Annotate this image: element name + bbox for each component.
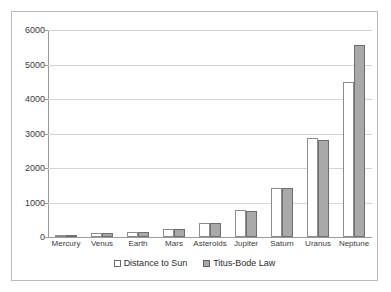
y-axis-tick-label: 1000 (11, 198, 45, 207)
x-axis-tick-label: Saturn (270, 239, 294, 249)
bar[interactable] (127, 232, 138, 237)
legend-label: Titus-Bode Law (213, 258, 275, 268)
bar[interactable] (138, 232, 149, 237)
bar[interactable] (91, 233, 102, 237)
legend-entry[interactable]: Titus-Bode Law (203, 258, 275, 268)
chart-legend: Distance to SunTitus-Bode Law (12, 258, 377, 268)
bar-group (264, 30, 300, 237)
bar[interactable] (343, 82, 354, 237)
legend-label: Distance to Sun (124, 258, 188, 268)
bar-group (156, 30, 192, 237)
x-axis-tick-label: Asteroids (193, 239, 226, 249)
bar[interactable] (282, 188, 293, 238)
y-axis-tick-label: 4000 (11, 95, 45, 104)
y-axis-tick-label: 0 (11, 233, 45, 242)
bar[interactable] (66, 235, 77, 237)
bar[interactable] (246, 211, 257, 237)
y-axis-tickmark (45, 237, 48, 238)
y-axis-tick-label: 2000 (11, 164, 45, 173)
bar-group (300, 30, 336, 237)
y-axis-tick-label: 3000 (11, 129, 45, 138)
bar[interactable] (235, 210, 246, 237)
bar-group (336, 30, 372, 237)
bar-group (48, 30, 84, 237)
legend-entry[interactable]: Distance to Sun (114, 258, 188, 268)
y-axis-tick-labels: 0100020003000400050006000 (12, 30, 45, 237)
chart-frame: 0100020003000400050006000 MercuryVenusEa… (11, 11, 378, 281)
bar[interactable] (318, 140, 329, 237)
y-axis-tick-label: 6000 (11, 26, 45, 35)
bar[interactable] (55, 235, 66, 237)
x-axis-tick-label: Neptune (339, 239, 369, 249)
bar-group (84, 30, 120, 237)
legend-swatch-icon (114, 260, 121, 267)
plot-area (48, 30, 372, 237)
bar[interactable] (271, 188, 282, 237)
legend-swatch-icon (203, 260, 210, 267)
bar[interactable] (210, 223, 221, 237)
x-axis-tick-label: Mars (165, 239, 183, 249)
bar[interactable] (199, 223, 210, 237)
y-axis-tick-label: 5000 (11, 60, 45, 69)
x-axis-tick-label: Uranus (305, 239, 331, 249)
x-axis-tick-labels: MercuryVenusEarthMarsAsteroidsJupiterSat… (48, 239, 372, 253)
x-axis-tick-label: Mercury (52, 239, 81, 249)
bar-group (192, 30, 228, 237)
bar-group (228, 30, 264, 237)
x-axis-tick-label: Earth (128, 239, 147, 249)
bar[interactable] (102, 233, 113, 237)
bar[interactable] (174, 229, 185, 237)
bar[interactable] (163, 229, 174, 237)
x-axis-baseline (48, 237, 372, 238)
x-axis-tick-label: Venus (91, 239, 113, 249)
bar[interactable] (354, 45, 365, 237)
bar-group (120, 30, 156, 237)
bar[interactable] (307, 138, 318, 237)
x-axis-tick-label: Jupiter (234, 239, 258, 249)
